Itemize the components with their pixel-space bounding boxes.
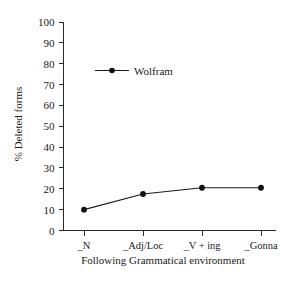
legend-marker-swatch (109, 68, 115, 74)
y-tick-label: 40 (44, 141, 56, 153)
x-axis-title: Following Grammatical environment (81, 254, 245, 266)
data-point (140, 191, 146, 197)
line-chart: 1009080706050403020100 _N_Adj/Loc_V + in… (0, 0, 296, 283)
y-tick-label: 60 (44, 99, 56, 111)
y-tick-label: 0 (49, 225, 55, 237)
x-tick-label: _V + ing (182, 240, 221, 251)
y-tick-label: 70 (44, 79, 56, 91)
y-tick-label: 90 (44, 37, 56, 49)
data-point (199, 185, 205, 191)
y-axis-title: % Deleted forms (12, 87, 24, 162)
data-point (81, 207, 87, 213)
x-tick-label: _N (77, 240, 91, 251)
x-tick-label: _Adj/Loc (122, 240, 164, 251)
y-tick-label: 80 (44, 58, 56, 70)
data-point (258, 185, 264, 191)
y-tick-label: 10 (44, 204, 56, 216)
legend-label-wolfram: Wolfram (134, 65, 173, 77)
y-tick-label: 20 (44, 183, 56, 195)
y-tick-label: 100 (38, 16, 55, 28)
y-tick-label: 30 (44, 162, 56, 174)
chart-figure: 1009080706050403020100 _N_Adj/Loc_V + in… (0, 0, 296, 283)
y-tick-label: 50 (44, 120, 56, 132)
x-tick-label: _Gonna (243, 240, 278, 251)
